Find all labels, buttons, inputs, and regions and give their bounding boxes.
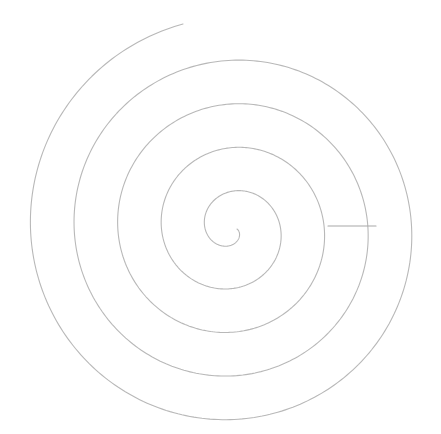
spiral-diagram xyxy=(0,0,441,434)
spiral-curve xyxy=(30,24,411,420)
